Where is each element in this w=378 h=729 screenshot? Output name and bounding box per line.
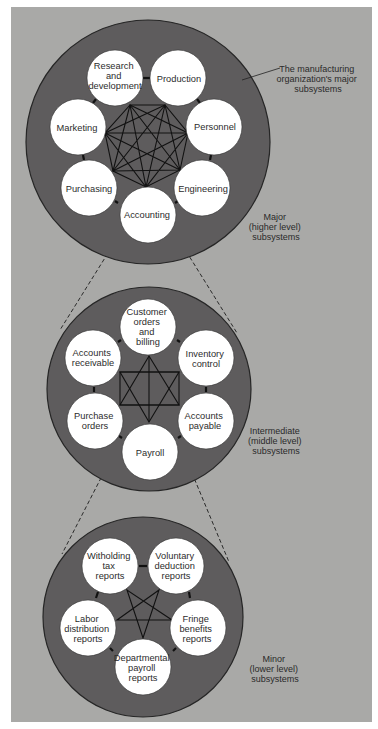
node-accounts-payable: Accounts payable <box>185 411 226 431</box>
node-engineering: Engineering <box>178 184 228 194</box>
callout-manufacturing-organization: The manufacturing organization's major s… <box>277 64 360 94</box>
major-subsystems-circle: Research and development Production Pers… <box>26 20 270 264</box>
node-marketing: Marketing <box>57 123 98 133</box>
label-major-subsystems: Major (higher level) subsystems <box>249 212 304 242</box>
label-intermediate-subsystems: Intermediate (middle level) subsystems <box>248 426 304 456</box>
node-fringe-benefits-reports: Fringe benefits reports <box>179 614 214 644</box>
node-production: Production <box>157 74 201 84</box>
label-minor-subsystems: Minor (lower level) subsystems <box>249 654 300 684</box>
subsystem-hierarchy-diagram: Research and development Production Pers… <box>0 0 378 729</box>
node-accounts-receivable: Accounts receivable <box>72 348 114 368</box>
intermediate-subsystems-circle: Customer orders and billing Inventory co… <box>47 287 251 491</box>
node-accounting: Accounting <box>124 210 170 220</box>
node-personnel: Personnel <box>194 122 236 132</box>
node-payroll: Payroll <box>136 448 164 458</box>
node-purchasing: Purchasing <box>66 184 113 194</box>
minor-subsystems-circle: Witholding tax reports Voluntary deducti… <box>43 517 243 717</box>
